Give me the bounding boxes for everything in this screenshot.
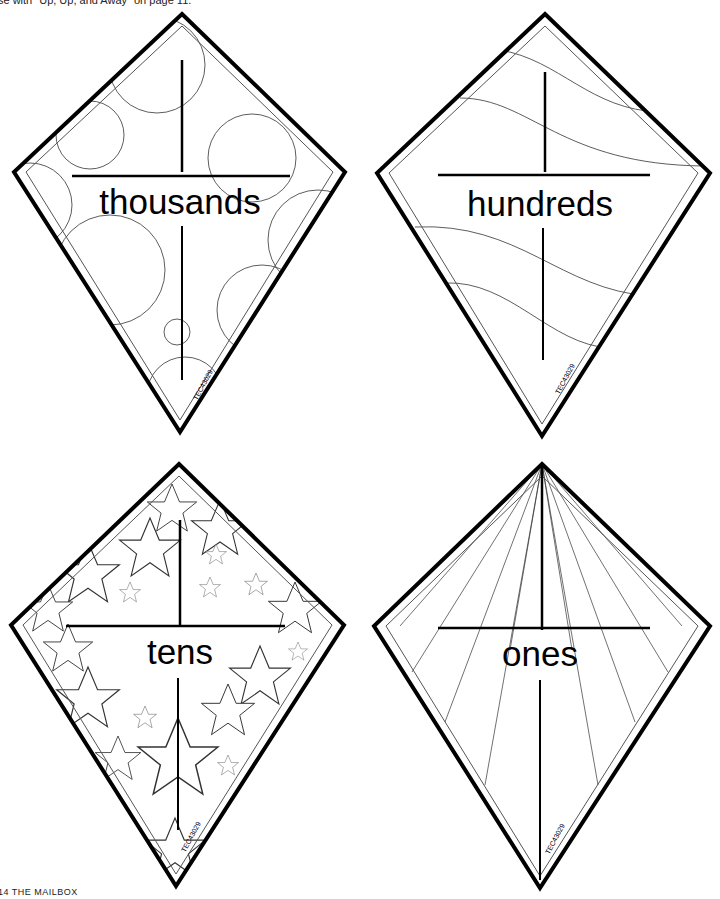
- kite-label-tens: tens: [0, 634, 360, 669]
- page-footer: 14 THE MAILBOX: [0, 887, 78, 897]
- kite-label-ones: ones: [360, 636, 720, 671]
- kite-thousands: thousands TEC43029: [0, 0, 360, 445]
- kite-tens: tens TEC43029: [0, 450, 360, 899]
- kite-ones: ones TEC43029: [360, 450, 720, 899]
- kite-outline-stars: [0, 450, 360, 899]
- kite-outline-rays: [360, 450, 720, 899]
- kite-outline-circles: [0, 0, 360, 445]
- star-pattern: [23, 484, 321, 876]
- kite-hundreds: hundreds TEC43029: [360, 0, 720, 445]
- kite-label-hundreds: hundreds: [360, 186, 720, 221]
- kite-label-thousands: thousands: [0, 184, 360, 219]
